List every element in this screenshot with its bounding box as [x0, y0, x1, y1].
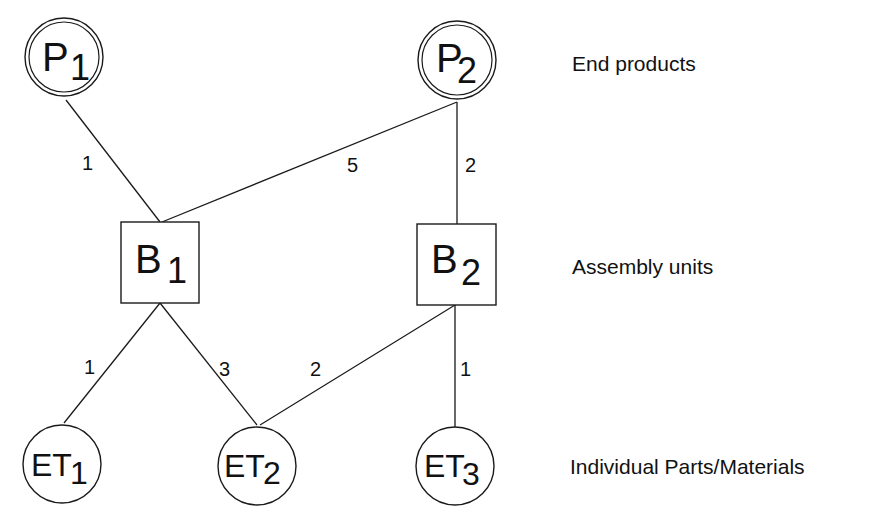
- node-label-sub: 1: [167, 250, 187, 291]
- quantity-label-b2-et3: 1: [460, 358, 471, 380]
- node-label-sub: 2: [457, 50, 477, 91]
- quantity-label-b1-et2: 3: [219, 358, 230, 380]
- node-p1: P 1: [25, 18, 103, 96]
- level-label-assembly-units: Assembly units: [572, 255, 713, 278]
- edge-p2-b1: [162, 102, 457, 222]
- level-label-individual-parts: Individual Parts/Materials: [570, 455, 805, 478]
- node-label-main: P: [42, 35, 69, 79]
- level-label-end-products: End products: [572, 52, 696, 75]
- quantity-label-p1-b1: 1: [82, 152, 93, 174]
- node-label-main: ET: [424, 448, 465, 484]
- bom-diagram: 1 5 2 1 3 2 1 P 1 P 2 B 1 B 2 ET 1: [0, 0, 878, 526]
- node-et1: ET 1: [23, 425, 101, 503]
- node-et2: ET 2: [218, 427, 296, 505]
- node-et3: ET 3: [416, 427, 494, 505]
- edge-b1-et1: [64, 303, 160, 423]
- edge-b1-et2: [160, 303, 257, 425]
- node-label-sub: 2: [461, 252, 481, 293]
- level-labels: End products Assembly units Individual P…: [570, 52, 805, 478]
- node-label-main: ET: [224, 448, 265, 484]
- node-label-sub: 3: [462, 456, 480, 492]
- quantity-label-p2-b1: 5: [347, 154, 358, 176]
- node-label-main: B: [431, 237, 458, 281]
- node-b1: B 1: [121, 222, 199, 303]
- node-b2: B 2: [417, 224, 496, 305]
- edge-p1-b1: [66, 100, 160, 222]
- quantity-label-p2-b2: 2: [465, 154, 476, 176]
- edge-b2-et2: [260, 305, 455, 425]
- node-p2: P 2: [418, 21, 496, 99]
- node-label-sub: 1: [70, 455, 88, 491]
- node-label-main: B: [135, 237, 162, 281]
- node-label-sub: 1: [70, 47, 90, 88]
- node-label-sub: 2: [263, 455, 281, 491]
- quantity-label-b1-et1: 1: [84, 356, 95, 378]
- node-label-main: ET: [31, 447, 72, 483]
- quantity-label-b2-et2: 2: [310, 358, 321, 380]
